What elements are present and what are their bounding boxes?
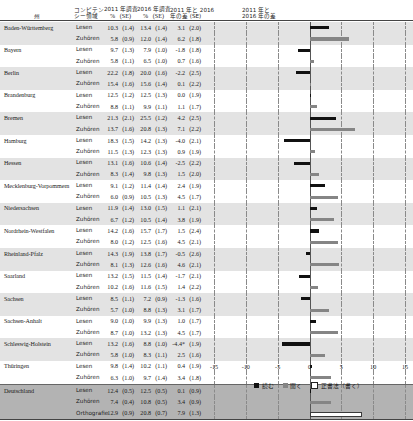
gridline — [214, 338, 215, 349]
gridline — [405, 90, 406, 101]
cell-state: Deutschland — [0, 385, 74, 396]
cell-se-2016: (1.3) — [152, 327, 170, 338]
gridline — [341, 225, 342, 236]
cell-se-2016: (1.2) — [152, 112, 170, 123]
cell-difference: 2.5 — [170, 350, 186, 361]
cell-difference: 0.7 — [170, 56, 186, 67]
gridline — [405, 67, 406, 78]
gridline — [341, 56, 342, 67]
legend-label-listen: 聞く — [290, 381, 302, 390]
bar-plot — [204, 158, 413, 169]
cell-difference: 2.4 — [170, 180, 186, 191]
cell-se-difference: (1.7) — [186, 191, 204, 202]
header-survey-2016-label: 2016 年調査 — [137, 6, 170, 13]
cell-se-2016: (1.3) — [152, 135, 170, 146]
cell-difference: -4.0 — [170, 135, 186, 146]
cell-se-2016: (1.7) — [152, 248, 170, 259]
table-row: BremenLesen21.3(2.1)25.5(1.2)4.2(2.5) — [0, 112, 413, 123]
cell-se-difference: (2.1) — [186, 259, 204, 270]
cell-state — [0, 350, 74, 361]
cell-pct-2016: 12.3 — [137, 146, 152, 157]
bar-read — [310, 117, 337, 120]
cell-se-difference: (2.1) — [186, 135, 204, 146]
table-row: SaarlandLesen13.2(1.5)11.5(1.4)-1.7(2.1) — [0, 271, 413, 282]
cell-se-2016: (1.4) — [152, 271, 170, 282]
bar-plot — [204, 90, 413, 101]
cell-state: Berlin — [0, 67, 74, 78]
gridline — [214, 101, 215, 112]
cell-state: Rheinland-Pfalz — [0, 248, 74, 259]
cell-competence: Lesen — [74, 203, 104, 214]
zero-line — [310, 67, 311, 78]
cell-pct-2011: 21.3 — [104, 112, 119, 123]
gridline — [246, 259, 247, 270]
bar-plot — [204, 191, 413, 202]
cell-pct-2016: 13.8 — [137, 248, 152, 259]
gridline — [373, 180, 374, 191]
cell-difference: -2.5 — [170, 158, 186, 169]
cell-bar-chart — [204, 180, 413, 191]
gridline — [405, 259, 406, 270]
axis-tick-label: 15 — [402, 364, 408, 370]
gridline — [278, 408, 279, 419]
cell-pct-2011: 9.7 — [104, 45, 119, 56]
cell-bar-chart — [204, 158, 413, 169]
cell-pct-2011: 9.8 — [104, 361, 119, 372]
legend-item-listen: 聞く — [283, 381, 303, 390]
cell-pct-2016: 12.5 — [137, 385, 152, 396]
table-row: Rheinland-PfalzLesen14.3(1.9)13.8(1.7)-0… — [0, 248, 413, 259]
cell-se-difference: (2.1) — [186, 271, 204, 282]
header-competence: コンピテン シー領域 — [74, 0, 104, 21]
gridline — [405, 338, 406, 349]
cell-se-2016: (1.3) — [152, 124, 170, 135]
cell-difference: -2.2 — [170, 67, 186, 78]
cell-competence: Zuhören — [74, 259, 104, 270]
axis-tick-label: 0 — [308, 364, 311, 370]
legend-label-read: 読む — [262, 381, 274, 390]
gridline — [278, 304, 279, 315]
gridline — [214, 135, 215, 146]
gridline — [341, 101, 342, 112]
header-chart-line1: 2011 年と — [204, 7, 413, 14]
gridline — [246, 203, 247, 214]
cell-se-2011: (0.4) — [119, 397, 137, 408]
axis-tick-label: -15 — [210, 364, 218, 370]
gridline — [341, 158, 342, 169]
cell-se-2011: (1.0) — [119, 316, 137, 327]
gridline — [341, 67, 342, 78]
gridline — [405, 316, 406, 327]
bar-read — [310, 26, 330, 29]
cell-se-difference: (2.0) — [186, 22, 204, 33]
gridline — [246, 135, 247, 146]
cell-pct-2016: 10.2 — [137, 361, 152, 372]
gridline — [246, 271, 247, 282]
gridline — [373, 271, 374, 282]
gridline — [405, 397, 406, 408]
gridline — [246, 22, 247, 33]
gridline — [373, 293, 374, 304]
gridline — [246, 169, 247, 180]
cell-competence: Zuhören — [74, 237, 104, 248]
gridline — [373, 316, 374, 327]
gridline — [278, 248, 279, 259]
gridline — [405, 33, 406, 44]
cell-state — [0, 124, 74, 135]
cell-state: Schleswig-Holstein — [0, 338, 74, 349]
bar-plot — [204, 180, 413, 191]
cell-state: Niedersachsen — [0, 203, 74, 214]
gridline — [278, 124, 279, 135]
cell-pct-2011: 12.4 — [104, 385, 119, 396]
cell-bar-chart — [204, 101, 413, 112]
cell-difference: 4.5 — [170, 237, 186, 248]
bar-listen — [310, 286, 319, 289]
cell-se-2016: (1.0) — [152, 338, 170, 349]
cell-se-difference: (2.1) — [186, 237, 204, 248]
cell-competence: Zuhören — [74, 350, 104, 361]
cell-competence: Zuhören — [74, 56, 104, 67]
cell-pct-2016: 11.5 — [137, 271, 152, 282]
cell-se-difference: (0.9) — [186, 397, 204, 408]
table-row: Zuhören5.8(0.9)12.0(1.4)6.2(1.8) — [0, 33, 413, 44]
gridline — [214, 158, 215, 169]
cell-state — [0, 304, 74, 315]
